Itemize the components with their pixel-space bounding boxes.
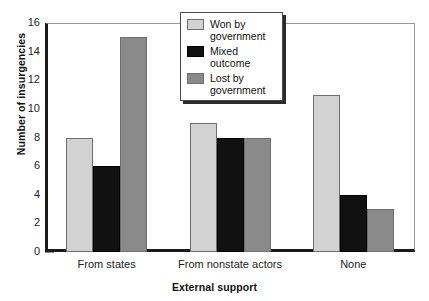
bar-none-lost-by-government [367, 209, 394, 252]
legend-swatch-won-by-government [187, 19, 204, 30]
legend-item-lost-by-government[interactable]: Lost bygovernment [187, 72, 277, 97]
legend-item-mixed-outcome[interactable]: Mixedoutcome [187, 45, 277, 70]
y-axis-title: Number of insurgencies [15, 19, 27, 169]
x-axis-title: External support [0, 281, 429, 293]
legend-swatch-lost-by-government [187, 73, 204, 84]
x-category-label-none: None [263, 258, 429, 270]
bar-from-states-won-by-government [66, 138, 93, 253]
bar-from-nonstate-actors-lost-by-government [244, 138, 271, 253]
y-tick-label-2: 2 [6, 217, 40, 228]
bar-none-mixed-outcome [340, 195, 367, 252]
legend-label: Mixedoutcome [210, 45, 250, 70]
legend-label: Lost bygovernment [210, 72, 265, 97]
bar-chart-figure: 0246810121416 Number of insurgencies Fro… [0, 0, 429, 301]
legend-item-won-by-government[interactable]: Won bygovernment [187, 18, 277, 43]
bar-from-nonstate-actors-won-by-government [190, 123, 217, 252]
bar-from-nonstate-actors-mixed-outcome [217, 138, 244, 253]
bar-from-states-lost-by-government [120, 37, 147, 252]
y-tick-label-0: 0 [6, 246, 40, 257]
chart-legend: Won bygovernmentMixedoutcomeLost bygover… [180, 12, 283, 101]
bar-from-states-mixed-outcome [93, 166, 120, 252]
y-tick-label-4: 4 [6, 189, 40, 200]
legend-swatch-mixed-outcome [187, 46, 204, 57]
y-tick-0 [45, 252, 54, 253]
bar-none-won-by-government [313, 95, 340, 252]
legend-label: Won bygovernment [210, 18, 265, 43]
